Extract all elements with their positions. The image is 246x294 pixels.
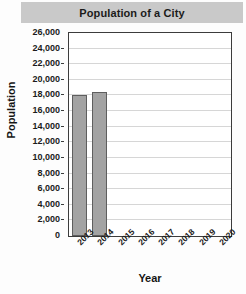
page-title: Population of a City <box>79 7 184 19</box>
y-axis-tick-mark <box>61 63 64 64</box>
y-axis-tick-mark <box>61 188 64 189</box>
x-axis-tick-labels: 20132014201520162017201820192020 <box>68 237 232 271</box>
y-axis-tick-label: 0 <box>55 230 60 240</box>
y-axis-tick-label: 12,000 <box>32 136 60 146</box>
y-axis-tick-label: 22,000 <box>32 58 60 68</box>
y-axis-tick-label: 26,000 <box>32 27 60 37</box>
y-axis-tick-label: 2,000 <box>37 214 60 224</box>
bar-chart-figure: Population of a City Population 02,0004,… <box>0 0 246 294</box>
y-axis-tick-mark <box>61 173 64 174</box>
y-axis-tick-label: 6,000 <box>37 183 60 193</box>
y-axis-tick-label: 10,000 <box>32 152 60 162</box>
x-axis-title: Year <box>68 272 232 284</box>
gridline <box>69 48 231 49</box>
chart-title-band: Population of a City <box>21 2 243 23</box>
y-axis-tick-mark <box>61 157 64 158</box>
y-axis-tick-mark <box>61 94 64 95</box>
y-axis-tick-label: 18,000 <box>32 89 60 99</box>
y-axis-tick-label: 16,000 <box>32 105 60 115</box>
y-axis-tick-label: 14,000 <box>32 121 60 131</box>
plot-area <box>68 32 232 237</box>
y-axis-tick-mark <box>61 79 64 80</box>
y-axis-tick-mark <box>61 141 64 142</box>
y-axis-tick-mark <box>61 126 64 127</box>
y-axis-tick-label: 8,000 <box>37 168 60 178</box>
bar <box>92 92 107 236</box>
y-axis-tick-mark <box>61 204 64 205</box>
y-axis-tick-mark <box>61 48 64 49</box>
gridline <box>69 63 231 64</box>
y-axis-tick-mark <box>61 219 64 220</box>
y-axis-tick-label: 4,000 <box>37 199 60 209</box>
y-axis-tick-label: 24,000 <box>32 43 60 53</box>
y-axis-tick-mark <box>61 110 64 111</box>
gridline <box>69 79 231 80</box>
y-axis-tick-labels: 02,0004,0006,0008,00010,00012,00014,0001… <box>0 32 64 237</box>
bar <box>72 95 87 236</box>
y-axis-tick-label: 20,000 <box>32 74 60 84</box>
